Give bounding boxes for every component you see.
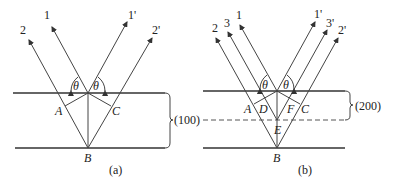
plane-label-100: (100)	[174, 113, 200, 127]
ray-label-2: 2	[212, 21, 218, 35]
point-label-E: E	[273, 123, 282, 137]
point-label-F: F	[286, 102, 295, 116]
ray-2-arrow-icon	[216, 38, 277, 148]
ray-2-arrow-icon	[29, 40, 88, 148]
theta-label-left: θ	[73, 79, 79, 93]
ray-2prime-arrow-icon	[277, 38, 338, 148]
caption-b: (b)	[298, 163, 312, 177]
point-label-B: B	[84, 151, 92, 165]
panel-b: 2 3 1 1' 3' 2' θ θ A D F C E B (200) (10…	[176, 7, 381, 177]
ray-label-3prime: 3'	[326, 16, 334, 30]
ray-label-1: 1	[44, 8, 50, 22]
diffraction-diagram: 1 2 1' 2' θ θ A B C (100) (a) 2 3	[0, 0, 393, 183]
point-label-D: D	[258, 102, 268, 116]
panel-a: 1 2 1' 2' θ θ A B C (100) (a)	[13, 8, 200, 177]
ray-1-arrow-icon	[240, 25, 277, 91]
ray-label-3: 3	[224, 16, 230, 30]
point-label-C: C	[112, 104, 121, 118]
bracket-100	[165, 93, 173, 148]
ray-label-2: 2	[20, 23, 26, 37]
point-label-A: A	[54, 104, 63, 118]
ray-3-arrow-icon	[228, 32, 277, 120]
theta-arc-right-icon	[98, 77, 105, 91]
theta-label-left: θ	[262, 78, 268, 92]
caption-a: (a)	[109, 163, 122, 177]
ray-label-2prime: 2'	[152, 23, 160, 37]
ray-label-1prime: 1'	[128, 8, 136, 22]
point-label-C: C	[301, 102, 310, 116]
theta-label-right: θ	[283, 78, 289, 92]
ray-1-arrow-icon	[52, 27, 88, 93]
plane-label-200: (200)	[355, 99, 381, 113]
point-label-A: A	[243, 102, 252, 116]
ray-label-2prime: 2'	[338, 23, 346, 37]
ray-label-1prime: 1'	[314, 7, 322, 21]
ray-label-1: 1	[236, 8, 242, 22]
bracket-200	[345, 91, 353, 120]
point-label-B: B	[273, 151, 281, 165]
theta-label-right: θ	[93, 79, 99, 93]
